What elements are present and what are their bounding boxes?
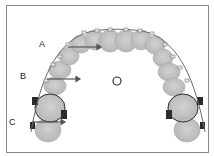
label-b: B [20,72,26,81]
teeth-right [115,30,200,142]
label-c: C [9,118,16,127]
label-a: A [39,40,45,49]
center-marker-icon [113,77,121,85]
dental-arch-diagram [0,0,214,156]
